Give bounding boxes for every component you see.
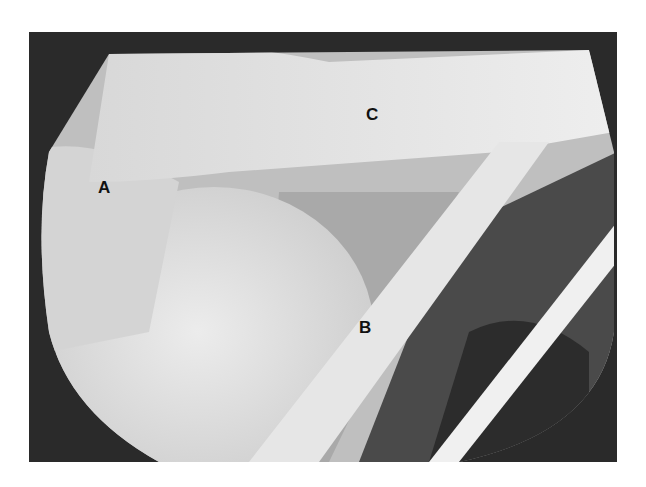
- label-c: C: [366, 105, 378, 125]
- arthroscopic-scene: [29, 32, 617, 462]
- label-a: A: [98, 178, 110, 198]
- label-b: B: [359, 318, 371, 338]
- image-frame: A B C: [29, 32, 617, 462]
